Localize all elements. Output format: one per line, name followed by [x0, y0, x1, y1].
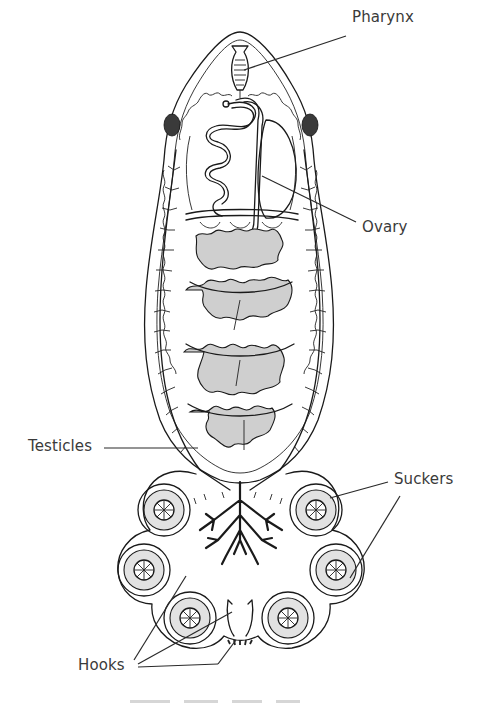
label-ovary: Ovary	[362, 218, 407, 236]
label-hooks: Hooks	[78, 656, 125, 674]
label-testicles: Testicles	[28, 437, 92, 455]
leader-suckers-1	[330, 482, 388, 498]
eyespot-right	[302, 114, 318, 136]
leader-ovary	[262, 176, 356, 222]
sucker-4	[290, 484, 342, 536]
figure-caption-cropped	[130, 696, 350, 704]
leader-hooks-3b	[218, 640, 236, 664]
label-pharynx: Pharynx	[352, 8, 414, 26]
testes-mass	[184, 229, 294, 450]
sucker-2	[118, 544, 170, 596]
ovary-structure	[186, 98, 296, 240]
sucker-1	[138, 484, 190, 536]
sucker-6	[262, 592, 314, 644]
leader-hooks-3	[138, 664, 218, 667]
diagram-figure: Pharynx Ovary Testicles Suckers Hooks	[0, 0, 480, 704]
flatworm-illustration	[0, 0, 480, 704]
pharynx-structure	[232, 46, 249, 98]
eyespot-left	[164, 114, 180, 136]
branching-duct	[194, 482, 282, 564]
label-suckers: Suckers	[394, 470, 453, 488]
leader-suckers-2	[350, 496, 400, 578]
